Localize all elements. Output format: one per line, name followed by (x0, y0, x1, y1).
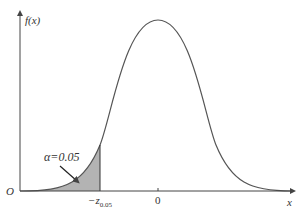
y-axis-label: f(x) (25, 15, 40, 26)
normal-distribution-diagram (0, 0, 300, 211)
x-axis-label: x (287, 197, 292, 208)
origin-label: O (6, 186, 14, 197)
critical-value-label: −z0.05 (88, 195, 112, 209)
alpha-label: α=0.05 (44, 151, 79, 163)
density-curve (20, 20, 292, 191)
alpha-arrow (60, 166, 77, 181)
zero-tick-label: 0 (155, 195, 161, 206)
